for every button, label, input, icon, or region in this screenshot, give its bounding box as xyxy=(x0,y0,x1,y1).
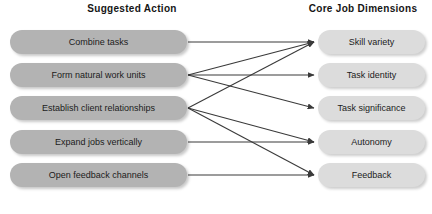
diagram-canvas: Suggested Action Core Job Dimensions Com… xyxy=(0,0,432,214)
suggested-action-combine-tasks[interactable]: Combine tasks xyxy=(10,30,187,54)
pill-label: Form natural work units xyxy=(51,70,145,80)
connector-form-natural-units-to-skill-variety xyxy=(188,42,314,75)
pill-label: Feedback xyxy=(352,170,392,180)
pill-label: Task significance xyxy=(337,103,405,113)
pill-label: Task identity xyxy=(347,70,397,80)
pill-label: Open feedback channels xyxy=(49,170,149,180)
core-dimension-autonomy[interactable]: Autonomy xyxy=(318,130,425,154)
core-dimension-task-identity[interactable]: Task identity xyxy=(318,63,425,87)
suggested-action-open-feedback[interactable]: Open feedback channels xyxy=(10,163,187,187)
connector-form-natural-units-to-task-significance xyxy=(188,75,314,108)
core-dimension-task-significance[interactable]: Task significance xyxy=(318,96,425,120)
core-dimension-feedback[interactable]: Feedback xyxy=(318,163,425,187)
suggested-action-form-natural-units[interactable]: Form natural work units xyxy=(10,63,187,87)
core-dimension-skill-variety[interactable]: Skill variety xyxy=(318,30,425,54)
pill-label: Establish client relationships xyxy=(42,103,155,113)
suggested-action-establish-client[interactable]: Establish client relationships xyxy=(10,96,187,120)
pill-label: Expand jobs vertically xyxy=(55,137,142,147)
pill-label: Autonomy xyxy=(351,137,392,147)
suggested-action-expand-jobs[interactable]: Expand jobs vertically xyxy=(10,130,187,154)
pill-label: Combine tasks xyxy=(69,37,129,47)
connector-establish-client-to-autonomy xyxy=(188,108,314,142)
pill-label: Skill variety xyxy=(349,37,395,47)
